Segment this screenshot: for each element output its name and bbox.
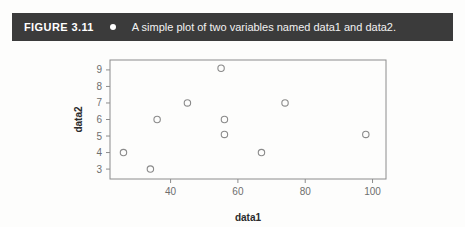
data-point xyxy=(147,166,153,172)
data-point xyxy=(154,116,160,122)
bullet-dot-icon xyxy=(110,24,116,30)
scatter-plot: 3456789 406080100 data1 data2 xyxy=(0,44,465,227)
data-points xyxy=(120,65,369,172)
y-tick-label: 4 xyxy=(96,147,102,158)
x-tick-label: 80 xyxy=(300,186,312,197)
x-tick-label: 100 xyxy=(364,186,381,197)
figure-caption-bar: FIGURE 3.11 A simple plot of two variabl… xyxy=(12,13,453,41)
data-point xyxy=(221,131,227,137)
data-point xyxy=(221,116,227,122)
data-point xyxy=(258,149,264,155)
x-axis: 406080100 xyxy=(165,179,381,197)
figure-card: FIGURE 3.11 A simple plot of two variabl… xyxy=(0,0,465,227)
y-tick-label: 3 xyxy=(96,164,102,175)
x-tick-label: 40 xyxy=(165,186,177,197)
y-tick-label: 9 xyxy=(96,64,102,75)
y-axis: 3456789 xyxy=(96,64,110,174)
data-point xyxy=(218,65,224,71)
y-tick-label: 6 xyxy=(96,114,102,125)
figure-caption-text: A simple plot of two variables named dat… xyxy=(132,21,396,33)
plot-frame xyxy=(110,60,386,179)
y-tick-label: 8 xyxy=(96,81,102,92)
data-point xyxy=(184,100,190,106)
x-tick-label: 60 xyxy=(232,186,244,197)
y-axis-title: data2 xyxy=(73,106,84,133)
figure-number-label: FIGURE 3.11 xyxy=(24,21,94,33)
data-point xyxy=(363,131,369,137)
data-point xyxy=(282,100,288,106)
x-axis-title: data1 xyxy=(235,212,262,223)
plot-canvas: 3456789 406080100 data1 data2 xyxy=(0,44,465,227)
data-point xyxy=(120,149,126,155)
y-tick-label: 5 xyxy=(96,131,102,142)
y-tick-label: 7 xyxy=(96,97,102,108)
